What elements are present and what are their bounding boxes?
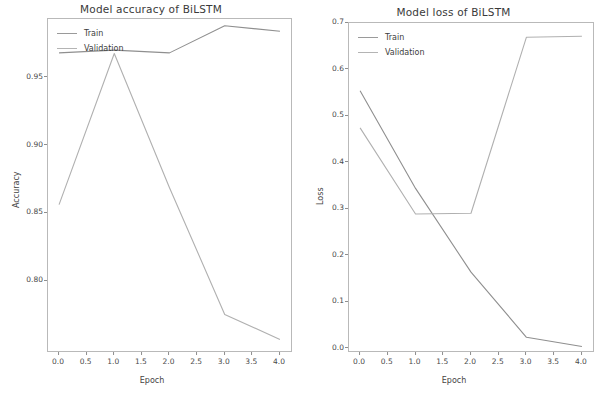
y-tick-label: 0.6 <box>314 64 344 73</box>
accuracy-plot-area <box>47 18 292 352</box>
y-tick-label: 0.4 <box>314 157 344 166</box>
y-tick-label: 0.5 <box>314 110 344 119</box>
y-tick-label: 0.0 <box>314 343 344 352</box>
y-tick-mark <box>44 144 47 145</box>
loss-x-axis-label: Epoch <box>442 376 467 385</box>
x-tick-mark <box>442 352 443 355</box>
y-tick-mark <box>345 22 348 23</box>
accuracy-panel: Model accuracy of BiLSTM 0.800.850.900.9… <box>0 0 302 397</box>
y-tick-label: 0.85 <box>13 207 43 216</box>
x-tick-label: 3.0 <box>519 357 531 366</box>
loss-chart-title: Model loss of BiLSTM <box>302 6 605 18</box>
loss-panel: Model loss of BiLSTM 0.00.10.20.30.40.50… <box>302 0 605 397</box>
x-tick-mark <box>359 352 360 355</box>
legend-entry-validation: Validation <box>57 41 124 56</box>
legend-swatch-train-icon <box>57 33 77 34</box>
y-tick-label: 0.95 <box>13 72 43 81</box>
x-tick-label: 0.0 <box>353 357 365 366</box>
legend-label-train: Train <box>385 34 404 42</box>
accuracy-lines <box>48 19 293 353</box>
series-line-validation <box>59 54 280 340</box>
x-tick-label: 2.0 <box>464 357 476 366</box>
legend-label-validation: Validation <box>385 49 425 57</box>
x-tick-label: 4.0 <box>575 357 587 366</box>
x-tick-label: 1.0 <box>409 357 421 366</box>
legend-label-train: Train <box>84 30 103 38</box>
x-tick-mark <box>470 352 471 355</box>
y-tick-mark <box>345 115 348 116</box>
legend-entry-validation: Validation <box>358 45 425 60</box>
x-tick-mark <box>279 352 280 355</box>
x-tick-mark <box>224 352 225 355</box>
x-tick-label: 3.5 <box>245 357 257 366</box>
legend-swatch-validation-icon <box>358 52 378 53</box>
legend-entry-train: Train <box>358 30 425 45</box>
loss-lines <box>349 23 595 353</box>
y-tick-mark <box>345 208 348 209</box>
x-tick-mark <box>387 352 388 355</box>
y-tick-mark <box>345 301 348 302</box>
x-tick-label: 0.5 <box>381 357 393 366</box>
x-tick-label: 1.0 <box>107 357 119 366</box>
y-tick-mark <box>345 254 348 255</box>
accuracy-legend: Train Validation <box>57 26 124 56</box>
x-tick-label: 2.5 <box>190 357 202 366</box>
y-tick-label: 0.80 <box>13 275 43 284</box>
y-tick-mark <box>44 280 47 281</box>
x-tick-label: 4.0 <box>273 357 285 366</box>
y-tick-mark <box>44 76 47 77</box>
accuracy-x-axis-label: Epoch <box>140 376 165 385</box>
legend-swatch-train-icon <box>358 37 378 38</box>
legend-label-validation: Validation <box>84 45 124 53</box>
x-tick-mark <box>58 352 59 355</box>
x-tick-mark <box>251 352 252 355</box>
y-tick-mark <box>345 347 348 348</box>
loss-legend: Train Validation <box>358 30 425 60</box>
loss-plot-area <box>348 22 594 352</box>
x-tick-label: 0.0 <box>52 357 64 366</box>
legend-entry-train: Train <box>57 26 124 41</box>
x-tick-label: 1.5 <box>436 357 448 366</box>
x-tick-mark <box>169 352 170 355</box>
x-tick-label: 3.0 <box>218 357 230 366</box>
x-tick-mark <box>141 352 142 355</box>
series-line-train <box>360 91 582 347</box>
x-tick-mark <box>196 352 197 355</box>
x-tick-mark <box>498 352 499 355</box>
x-tick-label: 0.5 <box>80 357 92 366</box>
y-tick-mark <box>345 161 348 162</box>
x-tick-label: 3.5 <box>547 357 559 366</box>
x-tick-mark <box>553 352 554 355</box>
accuracy-chart-title: Model accuracy of BiLSTM <box>0 3 302 15</box>
y-tick-label: 0.2 <box>314 250 344 259</box>
y-tick-label: 0.7 <box>314 17 344 26</box>
y-tick-mark <box>345 68 348 69</box>
x-tick-mark <box>113 352 114 355</box>
series-line-validation <box>360 36 582 214</box>
legend-swatch-validation-icon <box>57 48 77 49</box>
x-tick-mark <box>581 352 582 355</box>
y-tick-label: 0.90 <box>13 140 43 149</box>
matplotlib-figure: Model accuracy of BiLSTM 0.800.850.900.9… <box>0 0 605 397</box>
x-tick-mark <box>86 352 87 355</box>
x-tick-label: 2.0 <box>163 357 175 366</box>
y-tick-label: 0.1 <box>314 296 344 305</box>
y-tick-mark <box>44 212 47 213</box>
accuracy-y-axis-label: Accuracy <box>12 171 21 208</box>
x-tick-label: 1.5 <box>135 357 147 366</box>
x-tick-mark <box>525 352 526 355</box>
loss-y-axis-label: Loss <box>316 187 325 205</box>
x-tick-label: 2.5 <box>492 357 504 366</box>
x-tick-mark <box>415 352 416 355</box>
